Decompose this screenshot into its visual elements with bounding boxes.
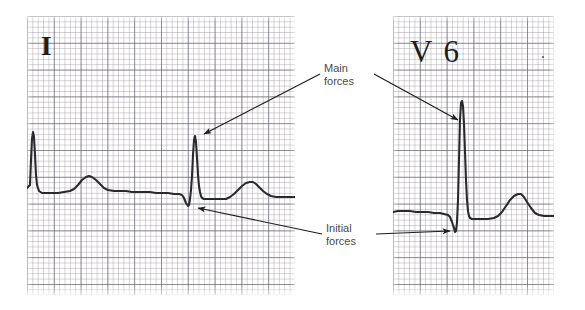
ecg-trace-layer	[0, 0, 585, 310]
arrow-main-forces-to-lead-v6	[374, 74, 458, 120]
arrow-initial-forces-to-lead-i	[198, 208, 322, 234]
arrow-main-forces-to-lead-i	[204, 74, 320, 134]
annotation-arrows	[198, 74, 458, 234]
ecg-figure: I V 6 Main forces Initial forces	[0, 0, 585, 310]
annotation-initial-forces: Initial forces	[326, 222, 356, 247]
arrow-initial-forces-to-lead-v6	[376, 231, 450, 234]
ecg-trace-lead-v6	[393, 101, 554, 232]
ecg-trace-lead-i	[27, 132, 295, 206]
annotation-main-forces: Main forces	[324, 62, 354, 87]
